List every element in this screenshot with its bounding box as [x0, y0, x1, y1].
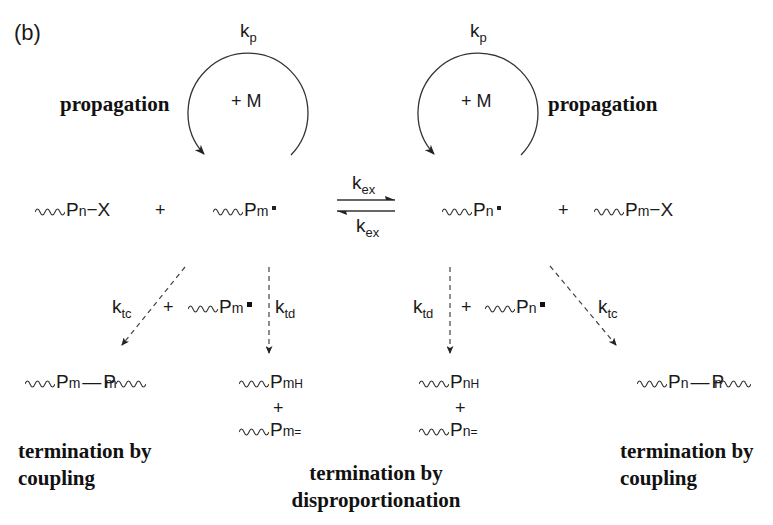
- label-line-1: termination by: [620, 438, 754, 465]
- polymer-chain-icon: [419, 378, 449, 388]
- species-symbol: P: [244, 199, 257, 221]
- monomer-left: + M: [231, 91, 262, 112]
- species-subscript: m: [257, 203, 269, 219]
- plus-sign: +: [558, 200, 569, 221]
- k-symbol: k: [413, 296, 423, 317]
- species-symbol: P: [450, 419, 463, 441]
- label-line-1: termination by: [286, 460, 466, 487]
- label-termination-coupling-right: termination by coupling: [620, 438, 754, 492]
- species-subscript: n: [79, 203, 87, 219]
- species-superscript: H: [294, 377, 303, 391]
- disp-product-left-saturated: PmH: [239, 371, 303, 393]
- panel-label: (b): [14, 20, 41, 46]
- k-symbol: k: [275, 296, 285, 317]
- rate-constant-ktd-right: ktd: [413, 296, 433, 321]
- species-suffix: −X: [86, 199, 110, 221]
- polymer-chain-icon: [213, 206, 243, 216]
- species-subscript: m: [283, 375, 295, 391]
- dormant-chain-pn-x: Pn−X: [35, 199, 110, 221]
- k-subscript: td: [423, 306, 434, 321]
- species-symbol: P: [625, 199, 638, 221]
- coupling-product-left: Pm—Pm: [25, 371, 147, 393]
- k-symbol: k: [112, 296, 122, 317]
- plus-sign: +: [455, 398, 466, 419]
- polymer-chain-icon: [637, 378, 667, 388]
- species-subscript: n: [681, 375, 689, 391]
- radical-dot-icon: [540, 302, 545, 307]
- polymer-chain-icon: [721, 378, 751, 388]
- k-subscript: ex: [366, 225, 380, 240]
- propagation-label-left: propagation: [60, 92, 169, 117]
- species-symbol: P: [219, 296, 232, 318]
- species-subscript: n: [463, 375, 471, 391]
- rate-constant-ktc-left: ktc: [112, 296, 132, 321]
- k-subscript: p: [480, 30, 487, 45]
- species-symbol: P: [270, 419, 283, 441]
- rate-constant-kp-right: kp: [470, 20, 487, 45]
- label-termination-disproportionation: termination by disproportionation: [286, 460, 466, 514]
- species-subscript: n: [486, 203, 494, 219]
- polymer-chain-icon: [419, 426, 449, 436]
- monomer-right: + M: [461, 91, 492, 112]
- radical-dot-icon: [497, 206, 501, 210]
- species-subscript: n: [529, 300, 537, 316]
- species-subscript: m: [638, 203, 650, 219]
- polymer-chain-icon: [116, 378, 146, 388]
- polymer-chain-icon: [594, 206, 624, 216]
- species-symbol: P: [56, 371, 69, 393]
- polymer-chain-icon: [239, 378, 269, 388]
- plus-sign: +: [155, 200, 166, 221]
- species-symbol: P: [473, 199, 486, 221]
- label-line-1: termination by: [18, 438, 152, 465]
- label-termination-coupling-left: termination by coupling: [18, 438, 152, 492]
- k-subscript: tc: [608, 306, 618, 321]
- k-symbol: k: [352, 172, 362, 193]
- disp-product-left-unsaturated: Pm=: [239, 419, 301, 441]
- radical-pn: Pn: [442, 199, 501, 221]
- species-subscript: n: [463, 423, 471, 439]
- bond: —: [690, 371, 709, 393]
- species-superscript: =: [470, 425, 477, 439]
- plus-sign: +: [273, 398, 284, 419]
- species-symbol: P: [66, 199, 79, 221]
- k-symbol: k: [240, 20, 250, 41]
- label-line-2: coupling: [18, 465, 152, 492]
- species-subscript: m: [69, 375, 81, 391]
- dormant-chain-pm-x: Pm−X: [594, 199, 673, 221]
- species-superscript: H: [470, 377, 479, 391]
- k-subscript: td: [285, 306, 296, 321]
- k-subscript: tc: [122, 306, 132, 321]
- species-subscript: m: [283, 423, 295, 439]
- species-symbol: P: [450, 371, 463, 393]
- k-symbol: k: [356, 215, 366, 236]
- k-subscript: p: [250, 30, 257, 45]
- rate-constant-kp-left: kp: [240, 20, 257, 45]
- polymer-chain-icon: [485, 303, 515, 313]
- species-symbol: P: [270, 371, 283, 393]
- label-line-2: coupling: [620, 465, 754, 492]
- radical-pm-termination: Pm: [188, 296, 252, 318]
- radical-pn-termination: Pn: [485, 296, 545, 318]
- propagation-label-right: propagation: [548, 92, 657, 117]
- k-subscript: ex: [362, 182, 376, 197]
- bond: —: [82, 371, 101, 393]
- radical-dot-icon: [247, 302, 252, 307]
- rate-constant-ktc-right: ktc: [598, 296, 618, 321]
- radical-dot-icon: [272, 206, 276, 210]
- label-line-2: disproportionation: [286, 487, 466, 514]
- polymer-chain-icon: [442, 206, 472, 216]
- polymer-chain-icon: [188, 303, 218, 313]
- rate-constant-kex-reverse: kex: [356, 215, 379, 240]
- coupling-product-right: Pn—Pn: [637, 371, 752, 393]
- disp-product-right-saturated: PnH: [419, 371, 479, 393]
- polymer-chain-icon: [25, 378, 55, 388]
- plus-sign: +: [163, 297, 174, 318]
- species-symbol: P: [516, 296, 529, 318]
- species-suffix: −X: [649, 199, 673, 221]
- rate-constant-kex-forward: kex: [352, 172, 375, 197]
- radical-pm: Pm: [213, 199, 276, 221]
- disp-product-right-unsaturated: Pn=: [419, 419, 478, 441]
- species-symbol: P: [668, 371, 681, 393]
- k-symbol: k: [598, 296, 608, 317]
- plus-sign: +: [461, 297, 472, 318]
